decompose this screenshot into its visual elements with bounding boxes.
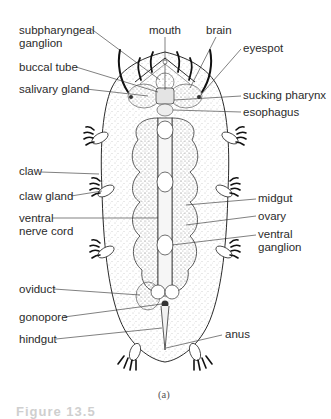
nerve-cord [157, 118, 173, 296]
label-line: ganglion [258, 241, 301, 254]
figure-number: Figure 13.5 [16, 404, 96, 419]
label-claw-gland: claw gland [19, 190, 73, 203]
label-subpharyngeal-ganglion: subpharyngeal ganglion [19, 24, 94, 50]
label-line: ventral [258, 228, 301, 241]
label-ovary: ovary [258, 210, 286, 223]
panel-label: (a) [158, 389, 170, 400]
label-anus: anus [225, 328, 250, 341]
label-oviduct: oviduct [19, 283, 55, 296]
label-line: nerve cord [19, 225, 73, 238]
label-line: subpharyngeal [19, 24, 94, 37]
label-esophagus: esophagus [243, 106, 299, 119]
label-gonopore: gonopore [19, 311, 68, 324]
label-mouth: mouth [149, 24, 181, 37]
label-ventral-ganglion: ventral ganglion [258, 228, 301, 254]
label-claw: claw [19, 165, 42, 178]
label-sucking-pharynx: sucking pharynx [243, 89, 326, 102]
label-hindgut: hindgut [19, 333, 57, 346]
label-brain: brain [206, 24, 232, 37]
label-eyespot: eyespot [243, 42, 283, 55]
label-ventral-nerve-cord: ventral nerve cord [19, 212, 73, 238]
label-line: ganglion [19, 37, 94, 50]
label-line: ventral [19, 212, 73, 225]
label-salivary-gland: salivary gland [19, 83, 89, 96]
label-buccal-tube: buccal tube [19, 61, 78, 74]
label-midgut: midgut [258, 192, 293, 205]
